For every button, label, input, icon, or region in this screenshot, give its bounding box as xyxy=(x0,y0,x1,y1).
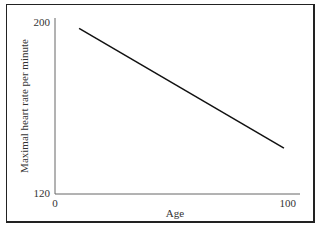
x-tick-0: 0 xyxy=(52,197,58,209)
chart: 200 120 0 100 Age Maximal heart rate per… xyxy=(0,0,323,229)
x-tick-100: 100 xyxy=(280,197,297,209)
heart-rate-line xyxy=(79,28,284,148)
y-tick-200: 200 xyxy=(34,16,51,28)
y-tick-120: 120 xyxy=(34,187,51,199)
x-axis-label: Age xyxy=(166,207,184,219)
y-axis-label: Maximal heart rate per minute xyxy=(18,39,30,173)
